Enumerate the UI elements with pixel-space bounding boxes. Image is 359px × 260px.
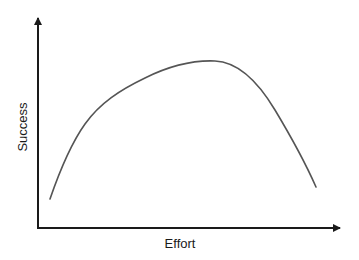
success-curve [50,61,316,199]
x-axis-label: Effort [165,236,196,251]
chart-canvas [0,0,359,260]
effort-success-diagram: Success Effort [0,0,359,260]
y-axis-label: Success [15,102,30,151]
